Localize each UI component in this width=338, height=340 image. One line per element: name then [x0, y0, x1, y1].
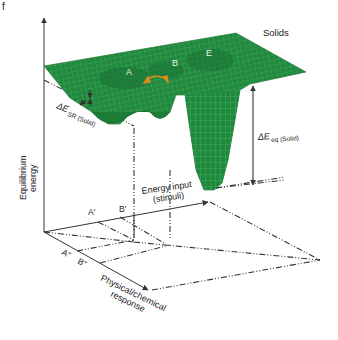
svg-text:B″: B″ — [76, 256, 88, 269]
svg-text:A″: A″ — [60, 247, 72, 260]
svg-text:energy: energy — [28, 164, 38, 192]
energy-landscape-diagram: f A B E — [0, 0, 338, 340]
svg-text:Equilibrium: Equilibrium — [18, 155, 28, 200]
well-label-b: B — [172, 58, 178, 68]
projection-b-prime: B′ — [119, 204, 127, 214]
svg-text:ΔE: ΔE — [256, 131, 271, 142]
y-axis-label: Equilibrium energy — [18, 155, 38, 200]
diagram-title: Solids — [263, 27, 289, 38]
svg-text:eq (Solid): eq (Solid) — [271, 134, 299, 144]
x-axis-label: Energy input (stimuli) — [141, 179, 194, 206]
baseline-e — [216, 180, 285, 188]
well-label-e: E — [206, 48, 212, 58]
energy-surface — [44, 33, 306, 190]
svg-text:SR (Solid): SR (Solid) — [66, 110, 96, 129]
well-label-a: A — [126, 67, 132, 77]
projection-b-double: B″ — [76, 256, 88, 269]
delta-e-eq-label: ΔE eq (Solid) — [256, 129, 299, 145]
projection-a-prime: A′ — [88, 207, 96, 217]
projection-a-double: A″ — [60, 247, 72, 260]
panel-label: f — [2, 1, 5, 12]
